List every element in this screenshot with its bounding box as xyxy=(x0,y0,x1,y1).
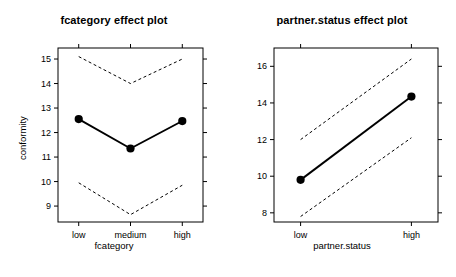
confidence-band-line xyxy=(301,59,412,140)
effect-point-marker xyxy=(296,176,304,184)
x-tick-label: high xyxy=(403,230,420,240)
y-tick-label: 15 xyxy=(41,54,51,64)
y-tick-label: 9 xyxy=(46,201,51,211)
x-tick-label: high xyxy=(174,230,191,240)
x-tick-label: low xyxy=(294,230,308,240)
confidence-band-line xyxy=(79,57,183,84)
y-tick-label: 8 xyxy=(262,208,267,218)
x-tick-label: medium xyxy=(114,230,146,240)
y-axis-title: conformity xyxy=(17,116,28,160)
effect-fit-line xyxy=(301,97,412,180)
y-tick-label: 16 xyxy=(257,61,267,71)
y-tick-label: 11 xyxy=(42,152,51,162)
confidence-band-line xyxy=(79,183,183,215)
y-tick-label: 13 xyxy=(41,103,51,113)
figure-canvas: fcategory effect plot fcategory conformi… xyxy=(0,0,456,277)
effect-point-marker xyxy=(126,144,134,152)
plot-frame xyxy=(274,48,438,222)
effect-plot-panel-fcategory: fcategory effect plot fcategory conformi… xyxy=(0,0,228,277)
y-tick-label: 10 xyxy=(257,171,267,181)
y-tick-label: 12 xyxy=(41,128,51,138)
effect-plot-panel-partner-status: partner.status effect plot partner.statu… xyxy=(228,0,456,277)
x-axis-title: partner.status xyxy=(228,240,456,251)
y-tick-label: 14 xyxy=(257,98,267,108)
effect-point-marker xyxy=(407,92,415,100)
effect-point-marker xyxy=(75,115,83,123)
x-tick-label: low xyxy=(72,230,86,240)
effect-fit-line xyxy=(79,119,183,148)
confidence-band-line xyxy=(301,138,412,217)
x-axis-title: fcategory xyxy=(0,240,228,251)
effect-point-marker xyxy=(178,117,186,125)
y-tick-label: 10 xyxy=(41,177,51,187)
plot-frame xyxy=(58,48,203,222)
y-tick-label: 14 xyxy=(41,79,51,89)
y-tick-label: 12 xyxy=(257,135,267,145)
